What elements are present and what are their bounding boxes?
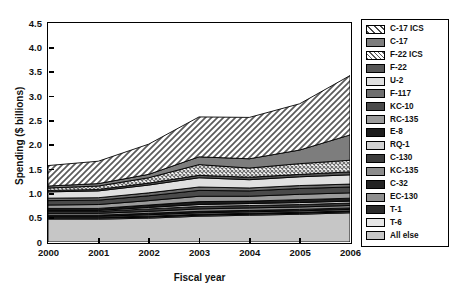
legend-item-label: C-17 — [390, 38, 408, 46]
legend-item-label: F-22 ICS — [390, 51, 423, 59]
legend-item-label: T-1 — [390, 206, 402, 214]
legend-item-c-17-ics[interactable]: C-17 ICS — [366, 23, 448, 36]
legend-swatch-icon — [366, 89, 385, 98]
y-axis-tick-label: 4.5 — [12, 19, 42, 29]
legend-item-all-else[interactable]: All else — [366, 229, 448, 242]
legend-swatch-icon — [366, 205, 385, 214]
y-axis-tick-label: 3.0 — [12, 92, 42, 102]
legend-item-label: T-6 — [390, 219, 402, 227]
y-axis-tick-label: 2.0 — [12, 140, 42, 150]
legend-swatch-icon — [366, 154, 385, 163]
legend-swatch-icon — [366, 115, 385, 124]
legend-item-label: C-130 — [390, 154, 412, 162]
legend-item-label: U-2 — [390, 77, 403, 85]
legend-swatch-icon — [366, 102, 385, 111]
y-axis-tick-label: 0.5 — [12, 213, 42, 223]
legend-item-c-130[interactable]: C-130 — [366, 152, 448, 165]
y-axis-tick-mark — [49, 144, 54, 146]
y-axis-tick-label: 1.5 — [12, 165, 42, 175]
legend-item-kc-10[interactable]: KC-10 — [366, 100, 448, 113]
legend-item-f-117[interactable]: F-117 — [366, 87, 448, 100]
x-axis-tick-label: 2006 — [331, 248, 371, 258]
stacked-area-plot — [48, 23, 350, 242]
legend-swatch-icon — [366, 141, 385, 150]
legend-swatch-icon — [366, 128, 385, 137]
legend-item-c-17[interactable]: C-17 — [366, 36, 448, 49]
x-axis-tick-label: 2001 — [79, 248, 119, 258]
legend-item-t-1[interactable]: T-1 — [366, 203, 448, 216]
legend-swatch-icon — [366, 77, 385, 86]
legend-item-label: KC-135 — [390, 167, 418, 175]
legend-swatch-icon — [366, 64, 385, 73]
legend-item-c-32[interactable]: C-32 — [366, 178, 448, 191]
x-axis-tick-mark — [98, 238, 100, 243]
legend-item-f-22[interactable]: F-22 — [366, 62, 448, 75]
legend-item-label: RC-135 — [390, 116, 418, 124]
x-axis-tick-label: 2000 — [29, 248, 69, 258]
legend-swatch-icon — [366, 51, 385, 60]
legend-swatch-icon — [366, 218, 385, 227]
x-axis-tick-mark — [299, 238, 301, 243]
legend-swatch-icon — [366, 231, 385, 240]
y-axis-tick-mark — [49, 71, 54, 73]
y-axis-tick-mark — [49, 96, 54, 98]
legend-item-label: KC-10 — [390, 103, 414, 111]
chart-legend: C-17 ICSC-17F-22 ICSF-22U-2F-117KC-10RC-… — [361, 19, 449, 247]
legend-item-kc-135[interactable]: KC-135 — [366, 165, 448, 178]
chart-figure: Spending ($ billions) — [0, 0, 452, 292]
x-axis-tick-label: 2003 — [180, 248, 220, 258]
legend-item-label: All else — [390, 232, 419, 240]
legend-item-e-8[interactable]: E-8 — [366, 126, 448, 139]
legend-item-label: EC-130 — [390, 193, 418, 201]
legend-swatch-icon — [366, 38, 385, 47]
x-axis-tick-label: 2005 — [280, 248, 320, 258]
legend-item-label: C-17 ICS — [390, 25, 424, 33]
legend-item-rq-1[interactable]: RQ-1 — [366, 139, 448, 152]
legend-swatch-icon — [366, 193, 385, 202]
y-axis-tick-mark — [49, 120, 54, 122]
legend-swatch-icon — [366, 180, 385, 189]
legend-item-t-6[interactable]: T-6 — [366, 216, 448, 229]
y-axis-tick-label: 0 — [12, 238, 42, 248]
y-axis-tick-mark — [49, 217, 54, 219]
x-axis-tick-label: 2004 — [230, 248, 270, 258]
legend-item-u-2[interactable]: U-2 — [366, 75, 448, 88]
legend-swatch-icon — [366, 25, 385, 34]
plot-area — [47, 22, 352, 244]
y-axis-tick-label: 4.0 — [12, 43, 42, 53]
y-axis-tick-label: 1.0 — [12, 189, 42, 199]
y-axis-tick-label: 3.5 — [12, 67, 42, 77]
x-axis-title: Fiscal year — [47, 272, 352, 283]
x-axis-tick-mark — [148, 238, 150, 243]
legend-item-label: C-32 — [390, 180, 408, 188]
legend-item-f-22-ics[interactable]: F-22 ICS — [366, 49, 448, 62]
legend-item-label: E-8 — [390, 128, 403, 136]
legend-item-rc-135[interactable]: RC-135 — [366, 113, 448, 126]
x-axis-tick-label: 2002 — [129, 248, 169, 258]
y-axis-tick-label: 2.5 — [12, 116, 42, 126]
x-axis-tick-mark — [249, 238, 251, 243]
y-axis-tick-mark — [49, 47, 54, 49]
y-axis-tick-mark — [49, 193, 54, 195]
legend-item-ec-130[interactable]: EC-130 — [366, 191, 448, 204]
x-axis-tick-mark — [199, 238, 201, 243]
legend-item-label: RQ-1 — [390, 141, 410, 149]
legend-item-label: F-117 — [390, 90, 411, 98]
legend-swatch-icon — [366, 167, 385, 176]
legend-item-label: F-22 — [390, 64, 407, 72]
y-axis-tick-mark — [49, 169, 54, 171]
